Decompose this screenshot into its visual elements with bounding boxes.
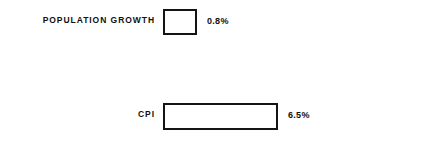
bar-row: POPULATION GROWTH 0.8% bbox=[0, 0, 437, 44]
bar-rectangle bbox=[163, 9, 197, 35]
bar-row: CPI 6.5% bbox=[0, 46, 437, 92]
bar-value-label: 0.8% bbox=[207, 16, 229, 26]
bar-chart: POPULATION GROWTH 0.8% CPI 6.5% GROWTH I… bbox=[0, 0, 437, 146]
bar-row: GROWTH IN PHYSICIAN POPULATION 11.4% bbox=[0, 94, 437, 142]
bar-category-label: POPULATION GROWTH bbox=[0, 15, 155, 27]
